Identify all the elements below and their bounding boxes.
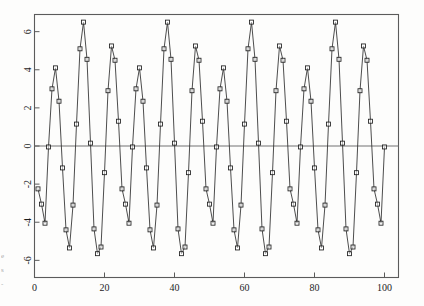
data-point-marker <box>348 252 352 256</box>
data-point-marker <box>120 187 124 191</box>
y-tick-label: 6 <box>22 29 33 34</box>
data-point-marker <box>372 187 376 191</box>
data-point-marker <box>71 203 75 207</box>
y-tick-label: 4 <box>22 67 33 72</box>
x-tick-label: 80 <box>310 282 320 293</box>
data-point-marker <box>257 141 261 145</box>
data-point-marker <box>106 89 110 93</box>
data-point-marker <box>285 119 289 123</box>
data-point-marker <box>173 141 177 145</box>
data-point-marker <box>166 20 170 24</box>
data-point-marker <box>232 228 236 232</box>
data-point-marker <box>337 57 341 61</box>
data-point-marker <box>362 44 366 48</box>
data-point-marker <box>306 66 310 70</box>
data-point-marker <box>330 47 334 51</box>
data-point-marker <box>358 89 362 93</box>
data-point-marker <box>267 245 271 249</box>
data-point-marker <box>313 166 317 170</box>
data-point-marker <box>215 145 219 149</box>
data-point-marker <box>190 89 194 93</box>
data-point-marker <box>274 89 278 93</box>
data-point-marker <box>183 245 187 249</box>
x-tick-label: 40 <box>170 282 180 293</box>
data-point-marker <box>281 58 285 62</box>
data-point-marker <box>246 47 250 51</box>
y-tick-label: -6 <box>22 256 33 264</box>
data-point-marker <box>264 252 268 256</box>
data-point-marker <box>110 44 114 48</box>
data-point-marker <box>141 99 145 103</box>
data-point-marker <box>271 171 275 175</box>
y-axis-ticks <box>35 32 40 261</box>
data-point-marker <box>218 87 222 91</box>
figure-page: e s - -6-4-20246 020406080100 <box>0 0 424 306</box>
data-point-marker <box>225 99 229 103</box>
data-point-marker <box>117 119 121 123</box>
data-point-marker <box>64 228 68 232</box>
data-point-marker <box>43 221 47 225</box>
data-point-marker <box>134 87 138 91</box>
data-point-marker <box>365 58 369 62</box>
data-point-marker <box>89 141 93 145</box>
data-point-marker <box>169 57 173 61</box>
data-point-marker <box>180 252 184 256</box>
data-point-marker <box>327 122 331 126</box>
data-point-marker <box>309 99 313 103</box>
y-tick-label: -2 <box>22 180 33 188</box>
data-point-marker <box>176 227 180 231</box>
data-point-marker <box>295 221 299 225</box>
x-tick-label: 60 <box>240 282 250 293</box>
data-point-marker <box>250 20 254 24</box>
data-point-marker <box>351 245 355 249</box>
data-point-marker <box>344 227 348 231</box>
data-point-marker <box>99 245 103 249</box>
data-point-marker <box>323 203 327 207</box>
y-tick-label: 2 <box>22 105 33 110</box>
data-point-marker <box>57 99 61 103</box>
data-point-marker <box>320 246 324 250</box>
x-tick-label: 20 <box>100 282 110 293</box>
data-point-marker <box>379 221 383 225</box>
data-point-marker <box>341 141 345 145</box>
data-point-marker <box>376 202 380 206</box>
data-point-marker <box>292 202 296 206</box>
x-axis-tick-labels: 020406080100 <box>32 282 392 293</box>
data-point-marker <box>124 202 128 206</box>
data-point-marker <box>299 145 303 149</box>
data-point-marker <box>260 227 264 231</box>
y-tick-label: -4 <box>22 218 33 226</box>
data-point-marker <box>229 166 233 170</box>
data-point-marker <box>383 145 387 149</box>
data-markers-signal <box>36 20 387 256</box>
data-point-marker <box>208 202 212 206</box>
data-point-marker <box>243 122 247 126</box>
data-point-marker <box>40 202 44 206</box>
x-tick-label: 0 <box>32 282 37 293</box>
data-point-marker <box>127 221 131 225</box>
data-point-marker <box>369 119 373 123</box>
data-point-marker <box>236 246 240 250</box>
data-point-marker <box>201 119 205 123</box>
data-point-marker <box>113 58 117 62</box>
data-point-marker <box>103 171 107 175</box>
data-point-marker <box>204 187 208 191</box>
data-point-marker <box>75 122 79 126</box>
data-line-signal <box>38 22 385 254</box>
data-point-marker <box>152 246 156 250</box>
data-point-marker <box>61 166 65 170</box>
data-point-marker <box>54 66 58 70</box>
x-axis-ticks <box>35 273 385 278</box>
data-point-marker <box>47 145 51 149</box>
x-tick-label: 100 <box>377 282 392 293</box>
data-point-marker <box>68 246 72 250</box>
y-tick-label: 0 <box>22 144 33 149</box>
data-point-marker <box>155 203 159 207</box>
data-point-marker <box>288 187 292 191</box>
data-point-marker <box>334 20 338 24</box>
data-point-marker <box>138 66 142 70</box>
data-point-marker <box>50 87 54 91</box>
data-point-marker <box>36 187 40 191</box>
data-point-marker <box>82 20 86 24</box>
data-point-marker <box>253 57 257 61</box>
